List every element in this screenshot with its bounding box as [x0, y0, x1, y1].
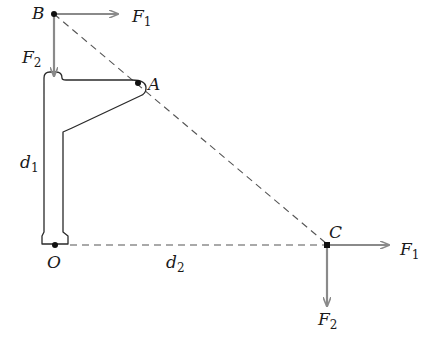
point-b	[51, 11, 57, 17]
point-c	[324, 242, 330, 248]
point-a	[135, 80, 141, 86]
label-b: B	[31, 3, 45, 23]
label-o: O	[47, 252, 61, 272]
label-f1-at-b: F1	[131, 6, 151, 29]
label-a: A	[146, 74, 160, 94]
dashed-line-b-to-c	[54, 14, 327, 244]
label-c: C	[329, 222, 342, 242]
label-f2-at-b: F2	[21, 47, 41, 70]
label-d2: d2	[166, 252, 185, 275]
label-d1: d1	[20, 152, 39, 175]
point-o	[52, 242, 58, 248]
force-diagram: B A O C F1 F2 F1 F2 d1 d2	[0, 0, 435, 345]
label-f1-at-c: F1	[399, 239, 419, 262]
bracket-body	[42, 72, 146, 244]
label-f2-at-c: F2	[317, 309, 337, 332]
